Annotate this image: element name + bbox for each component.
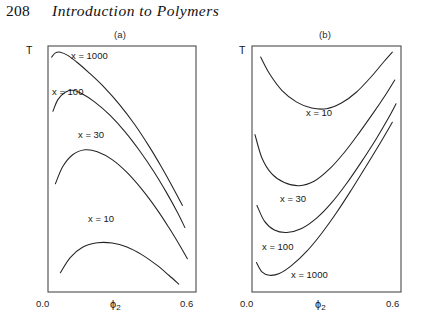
curve-x100: [257, 104, 396, 233]
curve-x30: [255, 80, 395, 186]
figure-phase-diagrams: (a) (b) T T ϕ2 ϕ2 0.0 0.6 0.0 0.6 x = 10…: [0, 0, 429, 324]
panel-a-axes-frame: [48, 46, 196, 292]
curve-x30: [55, 150, 187, 259]
panel-b-curve-label-x1000: x = 1000: [291, 269, 328, 280]
panel-b-curve-label-x30: x = 30: [280, 193, 306, 204]
panel-a-curve-label-x1000: x = 1000: [71, 50, 108, 61]
phase-diagram-plots: x = 1000 x = 100 x = 30 x = 10 x = 10 x …: [0, 0, 429, 324]
panel-b-curve-label-x10: x = 10: [306, 107, 332, 118]
panel-a-curve-label-x100: x = 100: [52, 86, 83, 97]
curve-x100: [53, 90, 185, 227]
panel-a-curve-label-x10: x = 10: [88, 213, 114, 224]
curve-x10: [60, 242, 178, 284]
curve-x10: [261, 52, 393, 109]
panel-b-axes-frame: [252, 46, 401, 292]
curve-x1000: [52, 52, 183, 205]
panel-a-curve-label-x30: x = 30: [78, 129, 104, 140]
panel-b-curve-label-x100: x = 100: [262, 241, 293, 252]
